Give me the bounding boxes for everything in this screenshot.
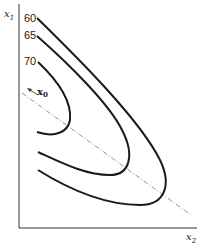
contour-60 xyxy=(37,18,166,205)
contour-70 xyxy=(37,62,70,134)
contour-label-60: 60 xyxy=(24,12,36,24)
contour-label-70: 70 xyxy=(24,55,36,67)
search-direction-line xyxy=(22,93,191,215)
contour-65 xyxy=(37,36,129,175)
x-axis-label: x2 xyxy=(186,231,197,244)
x0-label: x0 xyxy=(37,86,48,99)
contour-diagram: x1 x2 x0 60 65 70 xyxy=(0,0,206,244)
y-axis-label: x1 xyxy=(4,8,14,22)
contour-label-65: 65 xyxy=(24,29,36,41)
